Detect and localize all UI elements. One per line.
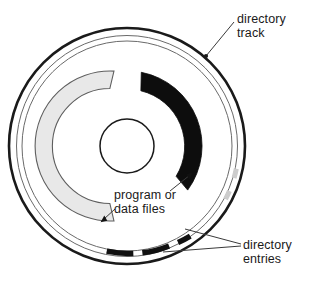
label-program-data-files-line1: program or [114,188,176,202]
label-directory-track-line1: directory [237,12,286,26]
track-tick-mark-2 [226,191,230,199]
label-directory-track-line2: track [237,26,286,40]
leader-line-directory-track [206,22,234,56]
leader-dot-directory-track [204,54,208,58]
disk-hub-hole [100,119,154,173]
directory-entry-segment-3 [107,251,134,253]
track-tick-mark-1 [234,169,236,178]
label-program-data-files: program or data files [114,188,176,216]
label-directory-track: directory track [237,12,286,40]
label-directory-entries-line2: entries [243,252,292,266]
label-directory-entries: directory entries [243,238,292,266]
disk-directory-diagram: directory track program or data files di… [0,0,321,287]
label-program-data-files-line2: data files [114,202,176,216]
label-directory-entries-line1: directory [243,238,292,252]
